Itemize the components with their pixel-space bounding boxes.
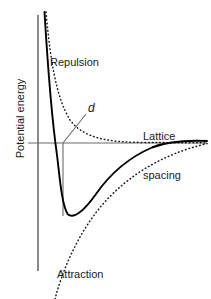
net-potential-curve bbox=[45, 12, 208, 216]
attraction-label: Attraction bbox=[57, 268, 103, 281]
repulsion-label: Repulsion bbox=[50, 56, 99, 69]
y-axis-label: Potential energy bbox=[14, 64, 27, 174]
potential-energy-figure: Potential energy Repulsion Attraction d … bbox=[0, 0, 211, 299]
d-leader-line bbox=[63, 114, 86, 143]
x-axis-label-line1: Lattice bbox=[143, 130, 181, 143]
x-axis-label: Lattice spacing bbox=[143, 104, 181, 208]
equilibrium-spacing-label: d bbox=[88, 102, 95, 115]
x-axis-label-line2: spacing bbox=[143, 169, 181, 182]
repulsion-curve bbox=[46, 12, 207, 143]
